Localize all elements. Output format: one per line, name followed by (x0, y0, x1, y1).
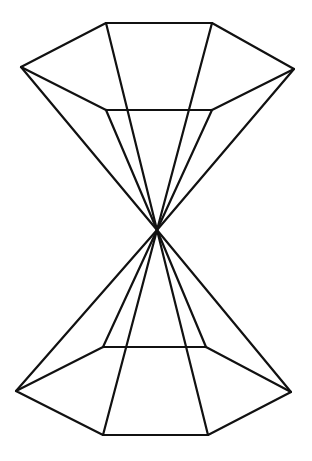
lower-pyramid (16, 230, 291, 435)
double-hexagonal-pyramid-diagram (0, 0, 312, 461)
upper-pyramid (21, 23, 294, 230)
upper-hexagon-base (21, 23, 294, 110)
lower-hexagon-base (16, 347, 291, 435)
